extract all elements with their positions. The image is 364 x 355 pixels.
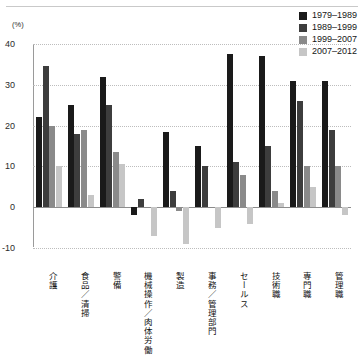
bar[interactable] [278,203,284,207]
legend-label: 1979–1989 [312,11,357,20]
legend-item[interactable]: 1989–1999 [299,23,357,32]
x-axis-labels: 介護食品／清掃警備機械操作／肉体労働製造事務／管理部門セールス技術職専門職管理職 [33,262,351,333]
bar[interactable] [113,152,119,207]
bar[interactable] [163,132,169,207]
bar[interactable] [297,101,303,207]
bar[interactable] [195,146,201,207]
legend-swatch-icon [299,24,307,32]
bar-group [224,40,256,260]
bar[interactable] [43,66,49,207]
y-axis-tick-label: 30 [0,80,15,90]
bar-group [97,40,129,260]
x-axis-tick-label: 管理職 [328,272,342,300]
bar-group [287,40,319,260]
plot-area: 403020100-10 [33,40,351,260]
bar[interactable] [49,126,55,208]
legend-label: 1989–1999 [312,23,357,32]
x-axis-tick-label: 製造 [169,272,183,290]
bar[interactable] [322,81,328,207]
bar-group [256,40,288,260]
bar[interactable] [145,207,151,208]
bar-group [33,40,65,260]
bar[interactable] [119,164,125,207]
bar[interactable] [68,105,74,207]
bar[interactable] [310,187,316,207]
bar-group [192,40,224,260]
bar[interactable] [170,191,176,207]
bar[interactable] [176,207,182,211]
bar[interactable] [240,175,246,208]
bar[interactable] [131,207,137,215]
legend-swatch-icon [299,12,307,20]
x-axis-tick-label: 技術職 [265,272,279,300]
bar-group [319,40,351,260]
legend-item[interactable]: 1979–1989 [299,11,357,20]
y-axis-tick-label: 10 [0,161,15,171]
bar[interactable] [74,134,80,207]
x-axis-tick-label: 専門職 [296,272,310,300]
y-axis-tick-label: 0 [0,202,15,212]
y-axis-unit-label: (%) [12,20,24,29]
bar[interactable] [56,166,62,207]
bar[interactable] [202,166,208,207]
bar[interactable] [183,207,189,244]
bar[interactable] [36,117,42,207]
bar[interactable] [259,56,265,207]
x-axis-tick-label: 機械操作／肉体労働 [137,272,151,355]
bar-group [160,40,192,260]
bar[interactable] [227,54,233,207]
bar[interactable] [233,162,239,207]
x-axis-tick-label: 事務／管理部門 [201,272,215,336]
y-axis-tick-label: 40 [0,39,15,49]
bar[interactable] [335,166,341,207]
bar[interactable] [265,146,271,207]
bar[interactable] [272,191,278,207]
bar-group [65,40,97,260]
bar[interactable] [247,207,253,223]
bar[interactable] [215,207,221,227]
y-axis-tick-label: -10 [0,243,15,253]
y-axis-tick-label: 20 [0,121,15,131]
bar[interactable] [208,207,214,208]
bar[interactable] [329,130,335,208]
bar[interactable] [106,105,112,207]
bar[interactable] [151,207,157,236]
x-axis-tick-label: 介護 [42,272,56,290]
x-axis-tick-label: 警備 [106,272,120,290]
bar[interactable] [88,195,94,207]
top-divider [6,6,358,7]
x-axis-tick-label: セールス [233,272,247,309]
bar[interactable] [342,207,348,215]
bar[interactable] [304,166,310,207]
bar[interactable] [138,199,144,207]
bar[interactable] [100,77,106,208]
x-axis-tick-label: 食品／清掃 [74,272,88,318]
bar[interactable] [290,81,296,207]
bar[interactable] [81,130,87,208]
bar-group [128,40,160,260]
